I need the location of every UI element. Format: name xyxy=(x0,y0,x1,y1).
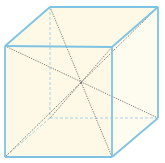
center-point xyxy=(80,82,82,84)
edge-front-top xyxy=(5,46,112,47)
cube-svg xyxy=(0,0,165,163)
cube-diagram xyxy=(0,0,165,163)
front-face xyxy=(5,46,112,157)
